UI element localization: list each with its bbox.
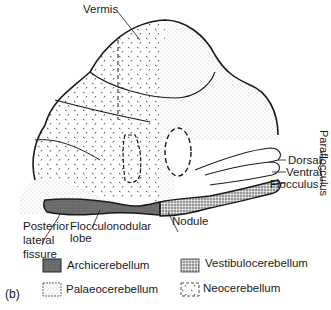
legend-swatch-vestibulocerebellum (181, 259, 199, 272)
legend-label-vestibulocerebellum: Vestibulocerebellum (205, 257, 308, 270)
legend-label-neocerebellum: Neocerebellum (203, 282, 280, 295)
legend-label-archicerebellum: Archicerebellum (67, 259, 149, 272)
label-vermis: Vermis (83, 3, 118, 16)
cerebellum-body (20, 12, 323, 245)
legend-swatch-neocerebellum (181, 283, 199, 296)
label-posterior-lateral-fissure-3: fissure (23, 248, 57, 261)
label-flocculonodular-lobe-2: lobe (70, 232, 92, 245)
panel-label: (b) (5, 288, 20, 301)
legend-swatch-palaeocerebellum (43, 283, 61, 296)
label-posterior-lateral-fissure-2: lateral (23, 234, 54, 247)
label-flocculus: Flocculus (270, 178, 319, 191)
label-nodule: Nodule (172, 215, 208, 228)
legend-label-palaeocerebellum: Palaeocerebellum (66, 283, 158, 296)
label-paraflocculus: Paraflocculus (318, 130, 330, 196)
label-posterior-lateral-fissure-1: Posterior (23, 220, 69, 233)
